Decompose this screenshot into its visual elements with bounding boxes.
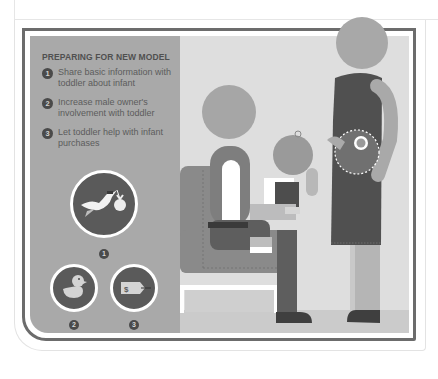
stork-icon <box>73 173 135 235</box>
mother-legs <box>352 245 380 315</box>
list-item-text: Share basic information with toddler abo… <box>58 67 183 89</box>
number-badge: 2 <box>42 98 53 109</box>
number-badge: 1 <box>42 68 53 79</box>
father-shoe <box>276 312 312 323</box>
list-item-text: Let toddler help with infant purchases <box>58 127 183 149</box>
toddler-head <box>273 135 313 175</box>
icon-number: 1 <box>99 249 109 259</box>
father-head <box>202 85 256 139</box>
number-badge: 3 <box>42 128 53 139</box>
mother-shoe <box>347 310 380 323</box>
icon-number: 2 <box>69 320 79 330</box>
chair-base <box>185 290 278 312</box>
duck-icon <box>53 267 95 309</box>
father-shirt <box>222 160 240 230</box>
list-item-text: Increase male owner's involvement with t… <box>58 97 183 119</box>
rubber-duck-icon <box>50 264 98 312</box>
father-belt <box>208 222 248 228</box>
baby-in-womb <box>335 130 379 174</box>
icon-number: 3 <box>129 320 139 330</box>
svg-text:$: $ <box>124 285 129 294</box>
father-shin <box>277 230 297 312</box>
page-edge <box>14 0 15 20</box>
stork-delivering-baby-icon <box>70 170 138 238</box>
tag-icon: $ <box>113 267 155 309</box>
panel-title: PREPARING FOR NEW MODEL <box>42 52 170 62</box>
price-tag-icon: $ <box>110 264 158 312</box>
family-illustration <box>180 0 438 340</box>
mother-head <box>336 17 388 69</box>
